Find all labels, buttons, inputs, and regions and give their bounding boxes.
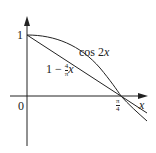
- linear-label: 1 − 4πx: [46, 63, 74, 78]
- linear-label-prefix: 1 −: [46, 62, 65, 76]
- cos-2x-label-var: x: [104, 45, 109, 59]
- cos-2x-label-text: cos 2: [79, 45, 104, 59]
- diagram: 1 0 x π4 cos 2x 1 − 4πx: [0, 0, 156, 153]
- x-axis-label: x: [139, 99, 144, 111]
- y-tick-1: 1: [17, 29, 23, 41]
- x-tick-denominator: 4: [116, 106, 120, 113]
- cos-2x-label: cos 2x: [79, 46, 109, 58]
- y-axis-arrow-icon: [24, 16, 30, 26]
- origin-label: 0: [18, 100, 24, 112]
- plot-canvas: [0, 0, 156, 153]
- x-tick-pi-over-4: π4: [116, 98, 120, 113]
- linear-label-var: x: [68, 62, 73, 76]
